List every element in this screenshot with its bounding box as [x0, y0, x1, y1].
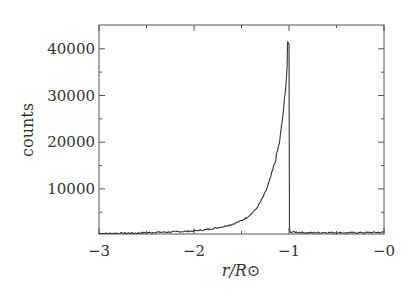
y-tick-label: 30000 [47, 87, 95, 105]
data-series [99, 42, 384, 234]
y-axis-label: counts [18, 103, 37, 157]
x-axis-label: r/R⊙ [222, 261, 261, 280]
y-tick-label: 10000 [47, 180, 95, 198]
x-tick-label: −3 [88, 242, 110, 260]
axes [99, 25, 384, 234]
x-tick-label: −0 [373, 242, 395, 260]
plot-frame [99, 25, 384, 234]
y-tick-label: 20000 [47, 133, 95, 151]
x-tick-label: −2 [183, 242, 205, 260]
data-line [99, 42, 384, 234]
x-tick-label: −1 [278, 242, 300, 260]
chart: −3−2−1−010000200003000040000 r/R⊙ counts [0, 0, 412, 295]
y-tick-label: 40000 [47, 40, 95, 58]
